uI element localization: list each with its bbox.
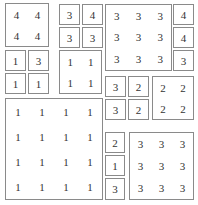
number-cell: 1	[54, 124, 78, 149]
number-cell: 3	[149, 27, 171, 49]
number-cell: 3	[151, 133, 172, 155]
number-cell: 3	[60, 5, 79, 24]
number-block-n[interactable]: 1111	[59, 50, 102, 94]
number-cell: 4	[83, 5, 102, 24]
number-cell: 1	[54, 99, 78, 124]
number-cell: 1	[6, 51, 25, 70]
number-block-f[interactable]: 333333333	[105, 4, 172, 71]
number-cell: 3	[174, 51, 193, 70]
number-block-t[interactable]: 1111111111111111	[5, 98, 103, 200]
block-grid: 333333333	[106, 5, 171, 70]
number-cell: 1	[78, 124, 102, 149]
number-block-b[interactable]: 3	[59, 4, 80, 25]
number-cell: 3	[149, 48, 171, 70]
number-cell: 1	[30, 149, 54, 174]
number-cell: 1	[30, 174, 54, 199]
number-block-w[interactable]: 3	[105, 178, 125, 200]
number-cell: 3	[106, 5, 128, 27]
number-cell: 2	[153, 77, 173, 98]
number-cell: 1	[6, 174, 30, 199]
number-cell: 1	[78, 99, 102, 124]
number-block-p[interactable]: 2	[128, 76, 149, 97]
number-block-j[interactable]: 1	[5, 50, 26, 71]
number-cell: 1	[6, 149, 30, 174]
number-cell: 4	[6, 4, 27, 25]
number-block-g[interactable]: 4	[173, 4, 194, 25]
number-cell: 3	[128, 48, 150, 70]
block-grid: 4	[174, 28, 193, 47]
number-block-s[interactable]: 2222	[152, 76, 194, 120]
block-grid: 2	[129, 77, 148, 96]
number-cell: 3	[172, 155, 193, 177]
number-cell: 3	[60, 28, 79, 47]
number-block-o[interactable]: 3	[105, 76, 126, 97]
number-cell: 3	[172, 133, 193, 155]
number-cell: 1	[60, 51, 81, 72]
number-cell: 3	[83, 28, 102, 47]
number-cell: 1	[6, 124, 30, 149]
number-block-h[interactable]: 4	[173, 27, 194, 48]
number-block-m[interactable]: 1	[28, 73, 49, 94]
number-cell: 1	[29, 74, 48, 93]
number-cell: 3	[29, 51, 48, 70]
number-cell: 3	[106, 179, 124, 199]
number-block-i[interactable]: 3	[173, 50, 194, 71]
block-grid: 3	[60, 28, 79, 47]
block-grid: 333333333	[130, 133, 193, 199]
block-grid: 1	[29, 74, 48, 93]
number-block-a[interactable]: 4444	[5, 3, 49, 47]
number-cell: 2	[153, 98, 173, 119]
number-cell: 4	[6, 25, 27, 46]
number-block-c[interactable]: 4	[82, 4, 103, 25]
number-cell: 1	[54, 149, 78, 174]
number-cell: 2	[173, 98, 193, 119]
number-block-u[interactable]: 2	[105, 132, 125, 153]
number-cell: 3	[128, 5, 150, 27]
number-block-v[interactable]: 1	[105, 155, 125, 176]
number-block-e[interactable]: 3	[82, 27, 103, 48]
number-cell: 1	[6, 74, 25, 93]
number-block-q[interactable]: 3	[105, 99, 126, 120]
block-grid: 4	[174, 5, 193, 24]
number-cell: 3	[172, 177, 193, 199]
number-block-l[interactable]: 1	[5, 73, 26, 94]
block-grid: 4444	[6, 4, 48, 46]
block-grid: 2	[129, 100, 148, 119]
block-grid: 3	[106, 179, 124, 199]
number-cell: 3	[128, 27, 150, 49]
number-block-x[interactable]: 333333333	[129, 132, 194, 200]
number-cell: 1	[54, 174, 78, 199]
block-grid: 1111	[60, 51, 101, 93]
block-grid: 1	[106, 156, 124, 175]
block-grid: 3	[60, 5, 79, 24]
number-cell: 1	[6, 99, 30, 124]
block-grid: 2222	[153, 77, 193, 119]
number-cell: 4	[174, 28, 193, 47]
number-cell: 1	[81, 72, 102, 93]
number-block-r[interactable]: 2	[128, 99, 149, 120]
block-grid: 1	[6, 74, 25, 93]
number-cell: 3	[151, 155, 172, 177]
block-grid: 3	[174, 51, 193, 70]
number-cell: 3	[106, 100, 125, 119]
number-cell: 3	[130, 155, 151, 177]
block-grid: 2	[106, 133, 124, 152]
number-cell: 1	[81, 51, 102, 72]
block-grid: 3	[83, 28, 102, 47]
number-cell: 4	[174, 5, 193, 24]
number-cell: 1	[78, 174, 102, 199]
block-grid: 3	[106, 100, 125, 119]
number-cell: 4	[27, 25, 48, 46]
block-grid: 3	[106, 77, 125, 96]
block-grid: 3	[29, 51, 48, 70]
number-cell: 3	[130, 177, 151, 199]
number-block-k[interactable]: 3	[28, 50, 49, 71]
number-cell: 4	[27, 4, 48, 25]
number-block-d[interactable]: 3	[59, 27, 80, 48]
number-cell: 1	[78, 149, 102, 174]
block-grid: 1111111111111111	[6, 99, 102, 199]
block-grid: 4	[83, 5, 102, 24]
block-grid: 1	[6, 51, 25, 70]
number-cell: 2	[129, 100, 148, 119]
number-cell: 1	[30, 99, 54, 124]
